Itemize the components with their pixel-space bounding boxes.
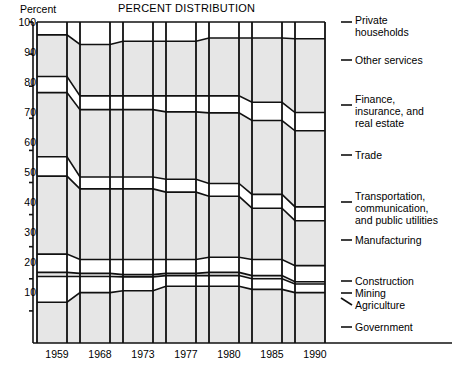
band-segment [252, 208, 282, 259]
band-segment [80, 177, 110, 189]
band-segment [295, 293, 325, 343]
band-connector [282, 121, 295, 207]
band-segment [252, 260, 282, 276]
band-segment [209, 196, 239, 257]
band-segment [252, 102, 282, 120]
band-segment [123, 291, 153, 343]
band-segment [252, 289, 282, 343]
band-segment [166, 22, 196, 41]
band-connector [282, 38, 295, 112]
y-tick-70: 70 [12, 106, 36, 118]
category-label-manufacturing: Manufacturing [355, 234, 422, 246]
band-connector [153, 260, 166, 275]
label-leader [341, 298, 352, 305]
band-segment [166, 260, 196, 274]
band-connector [110, 177, 123, 189]
band-connector [196, 286, 209, 343]
percent-distribution-chart: Percent PERCENT DISTRIBUTION 100 90 80 7… [0, 0, 464, 372]
band-segment [166, 192, 196, 259]
band-connector [110, 189, 123, 260]
label-line: communication, [355, 202, 438, 214]
chart-title: PERCENT DISTRIBUTION [118, 2, 255, 14]
band-segment [37, 35, 67, 77]
category-label-private-households: Private households [355, 14, 409, 38]
band-segment [295, 131, 325, 207]
band-segment [37, 22, 67, 35]
band-segment [295, 39, 325, 113]
band-connector [239, 22, 252, 38]
band-connector [110, 260, 123, 275]
label-line: Transportation, [355, 190, 438, 202]
band-segment [80, 22, 110, 44]
band-segment [123, 22, 153, 41]
band-connector [153, 286, 166, 343]
band-segment [252, 194, 282, 208]
band-connector [196, 96, 209, 113]
label-line: households [355, 26, 409, 38]
band-segment [209, 113, 239, 184]
band-segment [80, 189, 110, 260]
label-leader-lines [341, 22, 352, 327]
x-tick-1959: 1959 [37, 348, 77, 360]
band-segment [209, 38, 239, 96]
band-segment [295, 266, 325, 282]
band-connector [153, 41, 166, 96]
band-connector [110, 291, 123, 343]
band-segment [295, 284, 325, 293]
band-connector [153, 110, 166, 180]
band-connector [196, 276, 209, 287]
band-connector [239, 38, 252, 102]
band-segment [80, 96, 110, 110]
y-tick-50: 50 [12, 166, 36, 178]
category-label-trade: Trade [355, 149, 382, 161]
band-connector [282, 289, 295, 343]
band-segment [252, 121, 282, 195]
category-label-finance: Finance, insurance, and real estate [355, 93, 424, 129]
band-connector [239, 113, 252, 195]
band-segment [37, 254, 67, 272]
y-tick-20: 20 [12, 256, 36, 268]
band-segment [166, 41, 196, 96]
label-line: Private [355, 14, 409, 26]
band-segment [295, 221, 325, 266]
category-label-mining: Mining [355, 287, 386, 299]
category-label-other-services: Other services [355, 54, 423, 66]
band-segment [123, 110, 153, 177]
band-segment [209, 276, 239, 287]
y-tick-30: 30 [12, 226, 36, 238]
y-tick-40: 40 [12, 196, 36, 208]
band-segment [209, 286, 239, 343]
band-segment [209, 22, 239, 38]
band-segment [37, 93, 67, 157]
label-line: and public utilities [355, 214, 438, 226]
band-segment [123, 177, 153, 189]
category-label-transportation: Transportation, communication, and publi… [355, 190, 438, 226]
band-segment [37, 176, 67, 254]
x-tick-1985: 1985 [252, 348, 292, 360]
band-segment [37, 277, 67, 303]
band-segment [80, 260, 110, 274]
band-connector [196, 112, 209, 184]
band-connector [196, 38, 209, 96]
y-tick-80: 80 [12, 76, 36, 88]
band-segment [37, 77, 67, 93]
band-segment [80, 44, 110, 95]
y-tick-10: 10 [12, 286, 36, 298]
band-segment [209, 257, 239, 272]
x-tick-1973: 1973 [123, 348, 163, 360]
y-axis-title: Percent [20, 3, 56, 15]
band-segment [80, 293, 110, 343]
band-segment [166, 112, 196, 179]
band-segment [209, 183, 239, 196]
band-segment [166, 96, 196, 112]
band-segment [166, 179, 196, 192]
band-segment [295, 207, 325, 221]
band-segment [123, 189, 153, 260]
label-line: real estate [355, 117, 424, 129]
band-connector [110, 110, 123, 177]
category-label-government: Government [355, 321, 413, 333]
category-label-construction: Construction [355, 275, 414, 287]
band-segment [295, 22, 325, 39]
band-segment [123, 277, 153, 291]
band-connector [110, 96, 123, 110]
